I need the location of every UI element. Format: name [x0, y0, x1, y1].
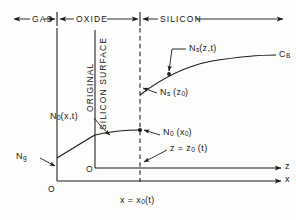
- ng-leader: [40, 158, 55, 166]
- label-ng-main: N: [16, 151, 23, 161]
- interface-concentration-point: [138, 128, 142, 132]
- vertical-label-silicon-surface: SILICON SURFACE: [99, 37, 108, 130]
- label-x-interface: x = x0(t): [120, 196, 155, 206]
- axis-label-x: x: [285, 175, 290, 184]
- z-interface-leader: [144, 150, 167, 162]
- label-bulk-sub: B: [286, 52, 290, 59]
- label-z-interface-arg: (t): [195, 143, 208, 153]
- label-silicon-surface-value: Ns (z0): [160, 88, 188, 98]
- label-z-interface: z = z0 (t): [170, 144, 208, 154]
- label-ng: Ng: [16, 152, 27, 162]
- region-label-oxide: OXIDE: [76, 15, 108, 24]
- label-x-interface-main: x = x: [120, 195, 141, 205]
- label-oxide-profile: N0(x,t): [50, 112, 78, 122]
- label-interface-value-arg: (x: [174, 127, 185, 137]
- label-x-interface-arg: (t): [145, 195, 155, 205]
- label-silicon-profile-arg: (z,t): [199, 43, 217, 53]
- diffusion-profile-diagram: GAS OXIDE SILICON ORIGINAL SILICON SURFA…: [0, 0, 296, 220]
- label-silicon-surface-value-main: N: [160, 87, 167, 97]
- label-silicon-profile-main: N: [189, 43, 196, 53]
- label-silicon-profile: Ns(z,t): [189, 44, 217, 54]
- oxide-concentration-curve: [57, 130, 140, 158]
- label-silicon-surface-value-arg: (z: [170, 87, 181, 97]
- label-oxide-profile-main: N: [50, 111, 57, 121]
- label-interface-value: N0 (x0): [163, 128, 192, 138]
- origin-label-x: O: [48, 185, 55, 194]
- label-z-interface-main: z = z: [170, 143, 191, 153]
- label-ng-sub: g: [23, 154, 27, 161]
- label-interface-value-close: ): [188, 127, 191, 137]
- label-bulk-main: C: [279, 49, 286, 59]
- silicon-curve-point: [167, 72, 171, 76]
- origin-label-z: O: [86, 165, 93, 174]
- label-bulk-concentration: CB: [279, 50, 290, 60]
- label-interface-value-main: N: [163, 127, 170, 137]
- vertical-label-original: ORIGINAL: [86, 63, 95, 112]
- silicon-profile-leader: [169, 49, 186, 71]
- diagram-canvas: [0, 0, 296, 220]
- region-label-gas: GAS: [32, 15, 53, 24]
- label-oxide-profile-arg: (x,t): [61, 111, 79, 121]
- region-bar: [14, 12, 283, 26]
- region-label-silicon: SILICON: [160, 15, 202, 24]
- label-silicon-surface-value-close: ): [185, 87, 188, 97]
- interface-value-leader: [144, 130, 160, 135]
- axis-label-z: z: [285, 162, 290, 171]
